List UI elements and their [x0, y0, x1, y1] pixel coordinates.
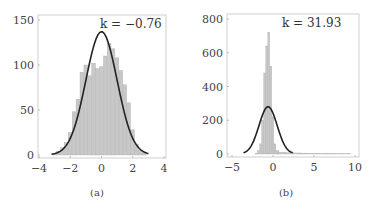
histogram-bar: [294, 153, 302, 154]
histogram-bar: [80, 72, 84, 155]
histogram-bar: [277, 152, 285, 154]
y-tick-label: 100: [13, 59, 34, 72]
histogram-bar: [92, 63, 96, 155]
panel-caption: (a): [90, 187, 104, 198]
y-tick-label: 50: [20, 104, 34, 117]
y-tick-label: 0: [27, 149, 34, 162]
histogram-bar: [256, 153, 258, 154]
histogram-bar: [107, 43, 111, 155]
histogram-bar: [272, 117, 274, 154]
histogram-bar: [318, 153, 326, 154]
histogram-bar: [326, 153, 334, 154]
histogram-bar: [268, 33, 270, 155]
x-tick-label: 0: [98, 162, 105, 175]
plot-area: [227, 14, 359, 157]
histogram-bar: [266, 46, 268, 154]
panel-caption: (b): [279, 187, 293, 198]
histogram-bar: [119, 70, 123, 155]
y-tick-label: 400: [202, 81, 223, 94]
figure: −4−2024050100150k = −0.76(a) −5051002004…: [0, 0, 377, 211]
x-tick-label: −5: [224, 161, 240, 174]
x-tick-label: 2: [129, 162, 136, 175]
histogram-bar: [302, 153, 310, 154]
y-tick-label: 600: [202, 47, 223, 60]
histogram-bar: [264, 73, 266, 154]
histogram-bar: [260, 144, 262, 154]
histogram-bar: [310, 153, 318, 154]
x-tick-label: 10: [348, 161, 362, 174]
y-tick-label: 0: [216, 148, 223, 161]
histogram-bar: [262, 120, 264, 154]
y-tick-label: 800: [202, 13, 223, 26]
x-tick-label: 4: [161, 162, 168, 175]
x-tick-label: 0: [270, 161, 277, 174]
histogram-bar: [88, 76, 92, 155]
histogram-bar: [100, 67, 104, 155]
histogram-bar: [103, 56, 107, 155]
x-tick-label: −2: [62, 162, 78, 175]
x-tick-label: −4: [31, 162, 47, 175]
x-tick-label: 5: [311, 161, 318, 174]
kurtosis-annotation: k = 31.93: [282, 16, 341, 30]
panel-b: −505100200400600800k = 31.93(b): [202, 13, 362, 198]
histogram-bar: [258, 151, 260, 154]
kurtosis-annotation: k = −0.76: [100, 17, 162, 31]
histogram-bar: [96, 69, 100, 155]
y-tick-label: 150: [13, 14, 34, 27]
y-tick-label: 200: [202, 114, 223, 127]
panel-a: −4−2024050100150k = −0.76(a): [13, 14, 168, 198]
